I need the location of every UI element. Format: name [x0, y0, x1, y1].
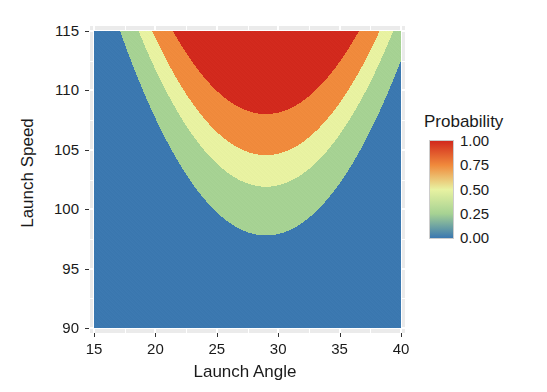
y-tick-mark — [85, 90, 89, 91]
y-tick-label: 110 — [39, 81, 79, 98]
y-tick-mark — [85, 150, 89, 151]
legend-tick-label: 0.50 — [460, 182, 489, 197]
y-tick-label: 115 — [39, 22, 79, 39]
x-tick-mark — [217, 333, 218, 337]
x-tick-label: 35 — [320, 340, 360, 357]
legend-colorbar — [429, 140, 454, 239]
x-tick-mark — [94, 333, 95, 337]
y-tick-label: 90 — [39, 319, 79, 336]
legend-title: Probability — [424, 112, 503, 132]
legend-tick-label: 0.75 — [460, 157, 489, 172]
x-tick-mark — [278, 333, 279, 337]
y-tick-label: 100 — [39, 200, 79, 217]
x-axis-title: Launch Angle — [0, 362, 490, 382]
legend-tick-label: 0.25 — [460, 206, 489, 221]
x-tick-mark — [340, 333, 341, 337]
chart-figure: 1520253035409095100105110115 Launch Angl… — [0, 0, 547, 392]
x-tick-label: 25 — [197, 340, 237, 357]
y-tick-mark — [85, 269, 89, 270]
y-axis-title: Launch Speed — [18, 53, 38, 293]
contour-plot-area — [94, 31, 401, 328]
y-tick-label: 95 — [39, 260, 79, 277]
y-tick-mark — [85, 209, 89, 210]
legend-tick-label: 1.00 — [460, 133, 489, 148]
y-tick-label: 105 — [39, 141, 79, 158]
y-tick-mark — [85, 31, 89, 32]
contour-canvas — [94, 31, 401, 328]
x-tick-mark — [401, 333, 402, 337]
x-tick-label: 30 — [258, 340, 298, 357]
x-tick-mark — [155, 333, 156, 337]
x-tick-label: 20 — [135, 340, 175, 357]
legend-tick-label: 0.00 — [460, 230, 489, 245]
y-tick-mark — [85, 328, 89, 329]
x-tick-label: 40 — [381, 340, 421, 357]
x-tick-label: 15 — [74, 340, 114, 357]
